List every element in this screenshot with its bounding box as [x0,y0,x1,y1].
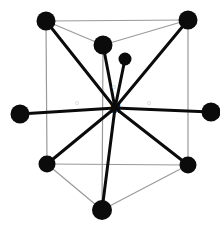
vertex-atom-bottom-left [39,156,56,173]
bond-center-top-left [46,21,115,108]
vertex-atom-top-right [179,11,198,30]
cage-edge-top-right-top-middle [103,20,188,45]
vertex-atom-extra-ligand [119,53,132,66]
vertex-atom-right [202,103,221,122]
coordination-complex-svg [0,0,220,229]
vertex-atom-top-middle [94,36,113,55]
cage-edge-top-middle-bottom-middle [102,45,103,210]
bond-center-left [20,108,115,114]
cage-edge-bottom-left-bottom-middle [47,164,102,210]
bond-center-right [115,108,211,112]
vertex-atom-top-left [37,12,56,31]
cage-edge-top-left-bottom-left [46,21,47,164]
bond-center-bottom-right [115,108,188,165]
vertex-atom-bottom-middle [92,200,112,220]
cage-edge-top-left-top-right [46,20,188,21]
bond-center-bottom-middle [102,108,115,210]
bond-group [20,20,211,210]
cage-edge-bottom-right-bottom-middle [102,165,188,210]
bond-center-bottom-left [47,108,115,164]
vertex-atom-bottom-right [180,157,197,174]
vertex-atom-left [11,105,30,124]
diagram-canvas: M o o o [0,0,220,229]
cage-edge-bottom-left-bottom-right [47,164,188,165]
